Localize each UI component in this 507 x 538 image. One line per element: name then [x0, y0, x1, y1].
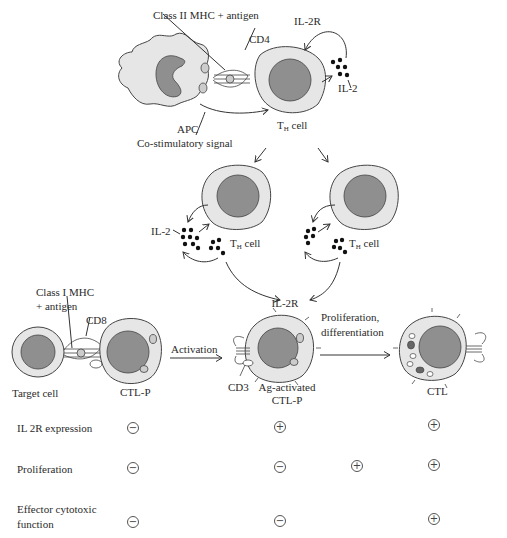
- immune-activation-diagram: [0, 0, 507, 538]
- label-th-cell-top: TH cell: [277, 119, 307, 135]
- plus-icon: +: [428, 459, 440, 471]
- label-cd3: CD3: [228, 381, 249, 393]
- label-cd4: CD4: [249, 33, 270, 45]
- th-cell-mid-left: [202, 165, 271, 229]
- minus-icon: −: [127, 422, 139, 434]
- th-cell-top: [255, 47, 326, 113]
- th-cell-mid-right: [330, 165, 398, 229]
- label-ctlp: CTL-P: [120, 386, 151, 398]
- minus-icon: −: [127, 462, 139, 474]
- label-il2-top: IL-2: [338, 82, 358, 94]
- label-il2r-mid: IL-2R: [272, 297, 299, 309]
- label-ag-activated-line1: Ag-activated: [259, 381, 316, 393]
- label-th-cell-mid-left: TH cell: [230, 237, 260, 253]
- plus-icon: +: [351, 460, 363, 472]
- row-label-effector-line1: Effector cytotoxic: [17, 502, 97, 516]
- label-proliferation-line1: Proliferation,: [321, 311, 379, 323]
- ag-activated-ctlp-cell: [234, 308, 321, 385]
- plus-icon: +: [428, 419, 440, 431]
- apc-cell: [119, 33, 209, 106]
- synapse-bottom: [64, 338, 104, 368]
- label-class1-mhc-line2: + antigen: [36, 300, 77, 312]
- minus-icon: −: [274, 515, 286, 527]
- il2-dots-mid: [181, 227, 347, 255]
- label-th-cell-mid-right: TH cell: [349, 237, 379, 253]
- minus-icon: −: [274, 461, 286, 473]
- synapse-top: [213, 70, 250, 87]
- label-activation: Activation: [171, 343, 217, 355]
- label-class2-mhc: Class II MHC + antigen: [153, 9, 259, 21]
- plus-icon: +: [274, 421, 286, 433]
- ctl-cell: [393, 308, 486, 388]
- label-costimulatory-signal: Co-stimulatory signal: [137, 137, 233, 149]
- row-label-proliferation: Proliferation: [17, 462, 73, 476]
- row-label-effector-line2: function: [17, 517, 54, 531]
- target-cell: [12, 327, 64, 377]
- label-ag-activated-line2: CTL-P: [272, 394, 303, 406]
- ctlp-cell: [100, 318, 162, 383]
- label-il2-mid: IL-2: [151, 225, 171, 237]
- label-target-cell: Target cell: [12, 387, 58, 399]
- minus-icon: −: [127, 516, 139, 528]
- label-ctl: CTL: [427, 385, 448, 397]
- label-il2r-top: IL-2R: [294, 15, 321, 27]
- row-label-il2r-expression: IL 2R expression: [17, 421, 92, 435]
- plus-icon: +: [428, 513, 440, 525]
- label-cd8: CD8: [86, 314, 107, 326]
- label-proliferation-line2: differentiation: [321, 326, 384, 338]
- il2-dots-top: [331, 58, 349, 77]
- label-class1-mhc-line1: Class I MHC: [36, 286, 94, 298]
- label-apc: APC: [177, 123, 198, 135]
